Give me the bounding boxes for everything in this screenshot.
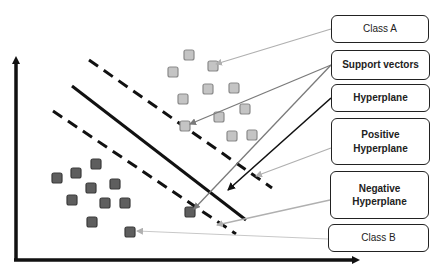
class-a-point — [247, 130, 257, 140]
label-positive-hyperplane-text: Positive Hyperplane — [353, 128, 407, 155]
hyperplane-line — [72, 86, 246, 220]
label-class-a: Class A — [331, 15, 429, 43]
label-class-b: Class B — [328, 224, 429, 252]
label-positive-hyperplane: Positive Hyperplane — [331, 118, 430, 165]
label-class-a-text: Class A — [363, 22, 397, 36]
class-a-point — [229, 83, 239, 93]
class-b-point — [100, 198, 110, 208]
class-a-point — [227, 131, 237, 141]
class-b-point — [67, 195, 77, 205]
label-class-b-text: Class B — [361, 231, 395, 245]
pointer-positive-hyperplane — [256, 148, 331, 176]
class-b-point — [52, 173, 62, 183]
axes — [14, 60, 356, 260]
label-support-vectors: Support vectors — [331, 50, 430, 80]
class-a-point — [240, 104, 250, 114]
class-a-point — [168, 67, 178, 77]
class-b-point — [91, 159, 101, 169]
class-b-point — [71, 168, 81, 178]
label-hyperplane: Hyperplane — [331, 84, 430, 112]
class-b-point — [185, 207, 195, 217]
class-b-point — [87, 217, 97, 227]
class-a-point — [178, 94, 188, 104]
pointer-class-a — [216, 29, 331, 64]
class-a-point — [180, 121, 190, 131]
class-a-points — [168, 50, 257, 141]
class-a-point — [184, 50, 194, 60]
label-negative-hyperplane-text: Negative Hyperplane — [352, 182, 406, 209]
class-a-point — [203, 84, 213, 94]
class-b-points — [52, 159, 195, 237]
class-b-point — [125, 227, 135, 237]
label-hyperplane-text: Hyperplane — [353, 91, 407, 105]
class-b-point — [120, 198, 130, 208]
class-b-point — [110, 179, 120, 189]
pointer-support-vector-b — [194, 65, 331, 209]
class-a-point — [208, 61, 218, 71]
label-support-vectors-text: Support vectors — [342, 58, 419, 72]
class-b-point — [86, 183, 96, 193]
label-negative-hyperplane: Negative Hyperplane — [330, 171, 429, 219]
